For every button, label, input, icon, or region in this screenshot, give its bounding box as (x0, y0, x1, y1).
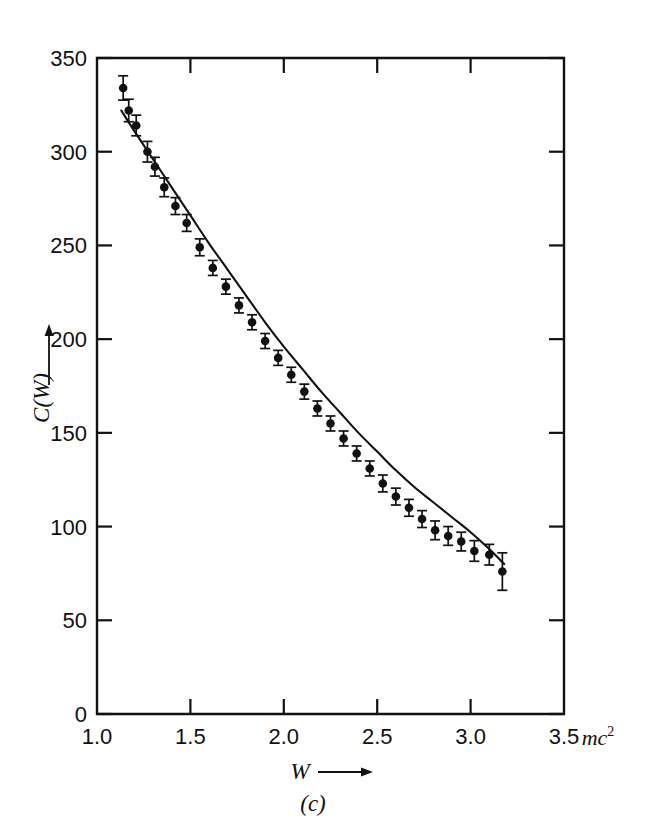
data-point-marker (222, 282, 231, 291)
data-point-marker (352, 449, 361, 458)
data-point-marker (195, 243, 204, 252)
panel-caption: (c) (300, 791, 326, 816)
x-tick-label: 1.5 (175, 724, 206, 749)
data-point-marker (392, 492, 401, 501)
data-point-marker (300, 387, 309, 396)
data-point-marker (405, 504, 414, 513)
data-point-marker (160, 183, 169, 192)
chart-canvas: 050100150200250300350 1.01.52.02.53.03.5… (0, 0, 655, 839)
figure-page: 050100150200250300350 1.01.52.02.53.03.5… (0, 0, 655, 839)
data-point-marker (119, 84, 128, 93)
data-point-marker (485, 550, 494, 559)
data-point-marker (313, 404, 322, 413)
y-tick-label: 50 (63, 608, 87, 633)
data-point-marker (444, 532, 453, 541)
data-point-marker (171, 202, 180, 211)
x-tick-label: 2.0 (269, 724, 300, 749)
data-point-marker (143, 147, 152, 156)
x-axis-unit-base: mc (582, 725, 608, 750)
x-tick-label: 1.0 (82, 724, 113, 749)
data-point-marker (182, 219, 191, 228)
x-axis-title-text: W (290, 759, 311, 784)
data-point-marker (287, 370, 296, 379)
y-tick-label: 250 (50, 233, 87, 258)
data-point-marker (274, 354, 283, 363)
x-tick-label: 2.5 (362, 724, 393, 749)
x-axis-unit-exponent: 2 (607, 724, 614, 739)
data-point-marker (248, 318, 257, 327)
data-point-marker (132, 121, 141, 130)
y-tick-label: 350 (50, 46, 87, 71)
y-axis-title-text: C(W) (29, 373, 54, 423)
data-point-marker (326, 419, 335, 428)
data-point-marker (124, 106, 133, 115)
y-tick-label: 200 (50, 327, 87, 352)
data-point-marker (457, 537, 466, 546)
y-tick-label: 300 (50, 140, 87, 165)
y-tick-label: 100 (50, 515, 87, 540)
data-point-marker (470, 547, 479, 556)
data-point-marker (235, 301, 244, 310)
data-point-marker (261, 337, 270, 346)
x-tick-label: 3.0 (455, 724, 486, 749)
data-point-marker (339, 434, 348, 443)
data-point-marker (209, 264, 218, 273)
data-point-marker (151, 162, 160, 171)
y-tick-label: 150 (50, 421, 87, 446)
data-point-marker (431, 526, 440, 535)
data-point-marker (365, 464, 374, 473)
data-point-marker (498, 567, 507, 576)
data-point-marker (418, 515, 427, 524)
x-tick-label: 3.5 (549, 724, 580, 749)
data-point-marker (379, 479, 388, 488)
